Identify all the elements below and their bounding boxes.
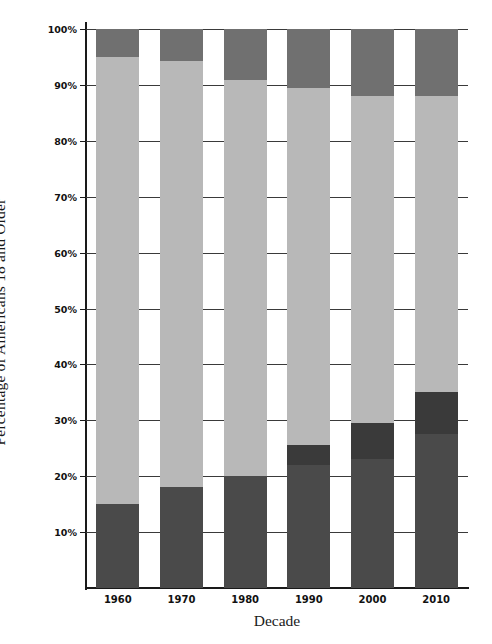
bar-segment-2000-middle-segment[interactable]	[351, 96, 394, 423]
y-tick-mark-60	[80, 253, 86, 254]
y-tick-label-40: 40%	[54, 359, 77, 370]
bar-segment-1960-top-segment[interactable]	[96, 29, 139, 57]
y-tick-mark-50	[80, 309, 86, 310]
bar-segment-2010-second-segment[interactable]	[415, 392, 458, 434]
bar-1980[interactable]	[224, 29, 267, 588]
y-tick-label-50: 50%	[54, 303, 77, 314]
x-tick-label-2010: 2010	[404, 594, 468, 605]
bar-segment-1970-middle-segment[interactable]	[160, 61, 203, 488]
bar-segment-1980-top-segment[interactable]	[224, 29, 267, 80]
x-tick-label-2000: 2000	[341, 594, 405, 605]
gridline-30	[86, 420, 468, 421]
bar-segment-2010-bottom-segment[interactable]	[415, 434, 458, 588]
gridline-60	[86, 253, 468, 254]
y-tick-label-100: 100%	[48, 24, 77, 35]
gridline-40	[86, 364, 468, 365]
gridline-10	[86, 532, 468, 533]
bar-segment-2000-top-segment[interactable]	[351, 29, 394, 96]
gridline-70	[86, 197, 468, 198]
bar-segment-2000-bottom-segment[interactable]	[351, 459, 394, 588]
chart-container: Percentage of Americans 18 and Older 10%…	[0, 0, 492, 644]
y-tick-mark-100	[80, 29, 86, 30]
y-tick-label-10: 10%	[54, 527, 77, 538]
bar-segment-1960-middle-segment[interactable]	[96, 57, 139, 504]
x-tick-label-1990: 1990	[277, 594, 341, 605]
bar-segment-1980-middle-segment[interactable]	[224, 80, 267, 476]
gridline-90	[86, 85, 468, 86]
x-tick-label-1970: 1970	[150, 594, 214, 605]
y-tick-label-20: 20%	[54, 471, 77, 482]
bar-segment-1960-bottom-segment[interactable]	[96, 504, 139, 588]
bar-1990[interactable]	[287, 29, 330, 588]
bar-segment-2010-middle-segment[interactable]	[415, 96, 458, 392]
bar-segment-1990-top-segment[interactable]	[287, 29, 330, 88]
bar-2000[interactable]	[351, 29, 394, 588]
bar-2010[interactable]	[415, 29, 458, 588]
y-tick-mark-80	[80, 141, 86, 142]
gridline-100	[86, 29, 468, 30]
bar-segment-1970-bottom-segment[interactable]	[160, 487, 203, 588]
bar-segment-2000-second-segment[interactable]	[351, 423, 394, 459]
y-tick-label-30: 30%	[54, 415, 77, 426]
x-tick-label-1980: 1980	[213, 594, 277, 605]
gridline-50	[86, 309, 468, 310]
y-tick-mark-70	[80, 197, 86, 198]
gridline-80	[86, 141, 468, 142]
bar-segment-1970-top-segment[interactable]	[160, 29, 203, 61]
bar-segment-1990-middle-segment[interactable]	[287, 88, 330, 446]
y-axis-title: Percentage of Americans 18 and Older	[0, 0, 70, 644]
bar-segment-1990-second-segment[interactable]	[287, 445, 330, 465]
y-tick-mark-40	[80, 364, 86, 365]
y-tick-label-60: 60%	[54, 247, 77, 258]
gridline-20	[86, 476, 468, 477]
y-tick-mark-10	[80, 532, 86, 533]
bar-segment-1990-bottom-segment[interactable]	[287, 465, 330, 588]
y-tick-label-80: 80%	[54, 135, 77, 146]
y-tick-mark-20	[80, 476, 86, 477]
y-tick-mark-30	[80, 420, 86, 421]
bar-1960[interactable]	[96, 29, 139, 588]
bar-segment-2010-top-segment[interactable]	[415, 29, 458, 96]
plot-area: 10%20%30%40%50%60%70%80%90%100%	[86, 29, 468, 588]
y-tick-mark-90	[80, 85, 86, 86]
bar-1970[interactable]	[160, 29, 203, 588]
bar-segment-1980-bottom-segment[interactable]	[224, 476, 267, 588]
x-tick-label-1960: 1960	[86, 594, 150, 605]
y-tick-label-90: 90%	[54, 79, 77, 90]
y-tick-label-70: 70%	[54, 191, 77, 202]
x-axis-title: Decade	[86, 612, 468, 630]
